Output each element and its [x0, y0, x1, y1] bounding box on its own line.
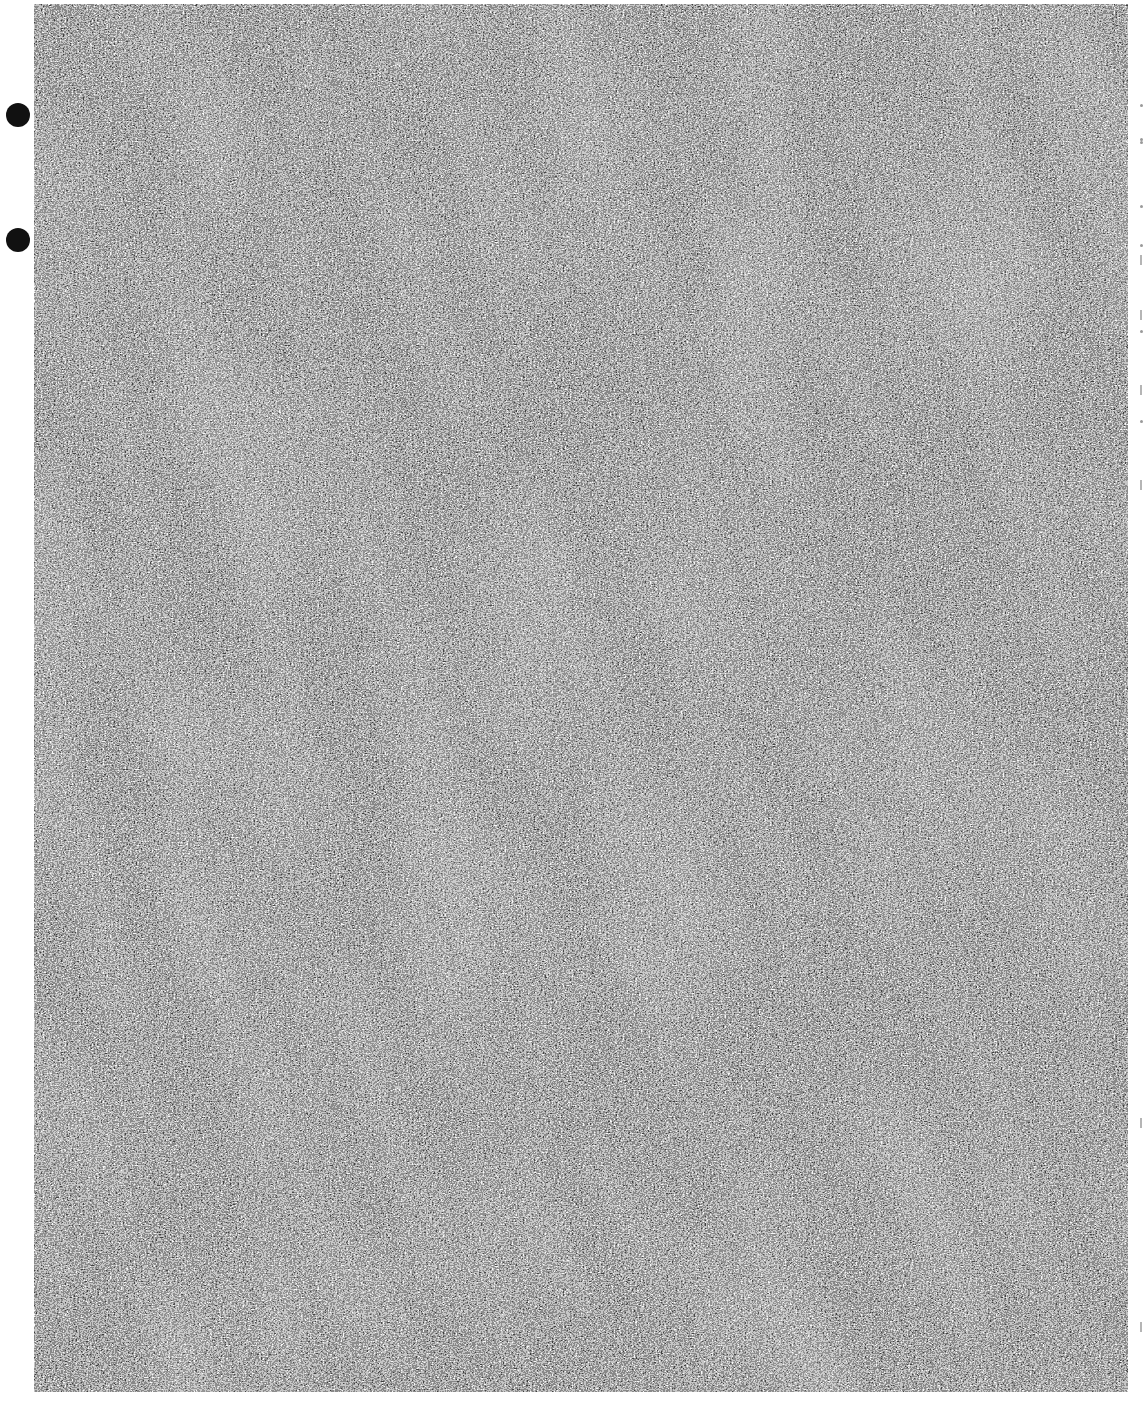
noise-texture [34, 4, 1128, 1392]
margin-speck [1140, 330, 1143, 333]
scanned-page [0, 0, 1144, 1410]
binder-hole-bottom [6, 228, 30, 252]
noise-texture-area [34, 4, 1128, 1392]
margin-dash [1140, 310, 1142, 320]
margin-dash [1140, 1118, 1142, 1128]
margin-speck [1140, 104, 1143, 107]
margin-speck [1140, 420, 1143, 423]
binder-hole-top [6, 103, 30, 127]
margin-dash [1140, 255, 1142, 265]
margin-speck [1140, 244, 1143, 247]
margin-dash [1140, 480, 1142, 490]
margin-speck [1140, 141, 1143, 144]
margin-speck [1140, 205, 1143, 208]
margin-dash [1140, 385, 1142, 395]
margin-dash [1140, 1322, 1142, 1332]
